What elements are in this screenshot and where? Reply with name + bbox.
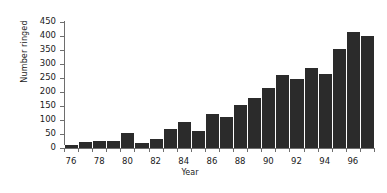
bar-83 xyxy=(163,129,177,148)
x-tick-mark xyxy=(247,148,248,152)
y-tick-mark xyxy=(60,36,64,37)
bar-92 xyxy=(289,79,303,148)
x-tick-label: 82 xyxy=(142,156,170,166)
x-tick-label: 96 xyxy=(339,156,367,166)
bar-85 xyxy=(191,131,205,148)
bar-80 xyxy=(120,133,134,148)
x-tick-mark xyxy=(120,148,121,152)
bar-77 xyxy=(78,142,92,148)
x-tick-mark xyxy=(191,148,192,152)
x-tick-mark xyxy=(360,148,361,152)
x-tick-mark xyxy=(205,148,206,152)
x-tick-mark xyxy=(304,148,305,152)
x-tick-mark xyxy=(289,148,290,152)
y-tick-label: 350 xyxy=(26,44,56,54)
x-tick-label: 84 xyxy=(170,156,198,166)
bar-chart: Number ringed 05010015020025030035040045… xyxy=(0,0,387,193)
x-tick-mark xyxy=(134,148,135,152)
x-tick-label: 78 xyxy=(85,156,113,166)
x-tick-mark xyxy=(318,148,319,152)
x-tick-mark xyxy=(233,148,234,152)
x-tick-mark xyxy=(332,148,333,152)
bar-90 xyxy=(261,88,275,148)
x-tick-label: 92 xyxy=(283,156,311,166)
y-tick-label: 150 xyxy=(26,100,56,110)
x-tick-mark xyxy=(275,148,276,152)
y-tick-label: 50 xyxy=(26,128,56,138)
x-tick-label: 86 xyxy=(198,156,226,166)
bar-96 xyxy=(346,32,360,148)
y-tick-mark xyxy=(60,120,64,121)
bar-86 xyxy=(205,114,219,148)
x-tick-label: 90 xyxy=(254,156,282,166)
y-tick-label: 400 xyxy=(26,30,56,40)
y-tick-mark xyxy=(60,50,64,51)
x-axis-title: Year xyxy=(182,168,199,177)
bar-84 xyxy=(177,122,191,148)
x-tick-mark xyxy=(346,148,347,152)
x-tick-mark xyxy=(374,148,375,152)
bar-81 xyxy=(134,143,148,148)
x-tick-mark xyxy=(149,148,150,152)
x-tick-mark xyxy=(261,148,262,152)
y-tick-label: 250 xyxy=(26,72,56,82)
bar-78 xyxy=(92,141,106,148)
x-tick-label: 76 xyxy=(57,156,85,166)
y-tick-label: 450 xyxy=(26,16,56,26)
bar-88 xyxy=(233,105,247,148)
y-tick-label: 0 xyxy=(26,142,56,152)
plot-area xyxy=(64,22,374,148)
y-tick-mark xyxy=(60,22,64,23)
x-tick-mark xyxy=(78,148,79,152)
bar-94 xyxy=(318,74,332,148)
bar-95 xyxy=(332,49,346,148)
y-tick-label: 300 xyxy=(26,58,56,68)
bar-93 xyxy=(304,68,318,148)
bar-82 xyxy=(149,139,163,148)
bar-76 xyxy=(64,145,78,148)
x-tick-label: 80 xyxy=(113,156,141,166)
y-tick-label: 100 xyxy=(26,114,56,124)
y-tick-mark xyxy=(60,106,64,107)
y-tick-mark xyxy=(60,78,64,79)
y-tick-mark xyxy=(60,64,64,65)
x-tick-mark xyxy=(219,148,220,152)
y-tick-mark xyxy=(60,92,64,93)
x-tick-mark xyxy=(64,148,65,152)
y-tick-label: 200 xyxy=(26,86,56,96)
x-tick-label: 94 xyxy=(311,156,339,166)
bar-89 xyxy=(247,98,261,148)
x-tick-mark xyxy=(177,148,178,152)
y-tick-mark xyxy=(60,134,64,135)
bar-91 xyxy=(275,75,289,148)
x-tick-mark xyxy=(106,148,107,152)
x-tick-mark xyxy=(163,148,164,152)
bar-97 xyxy=(360,36,374,148)
bar-87 xyxy=(219,117,233,148)
x-tick-label: 88 xyxy=(226,156,254,166)
x-tick-mark xyxy=(92,148,93,152)
bar-79 xyxy=(106,141,120,148)
